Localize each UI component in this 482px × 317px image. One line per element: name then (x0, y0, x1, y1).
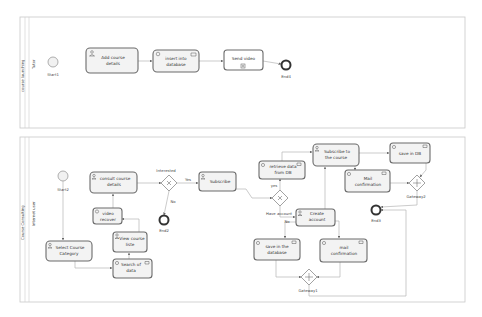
svg-text:Gateway1: Gateway1 (298, 288, 318, 293)
flow-label-no: No (170, 199, 176, 204)
svg-text:Have account: Have account (266, 211, 293, 216)
task-save-in-the-database[interactable]: save in the database (254, 239, 300, 260)
svg-text:End3: End3 (371, 218, 381, 223)
task-insert-into-database[interactable]: insert into database (153, 50, 199, 72)
task-retrieve-data-from-db[interactable]: retrieve data from DB (259, 161, 305, 179)
subprocess-send-video[interactable]: Send video (224, 50, 263, 70)
svg-text:Subscribe: Subscribe (210, 179, 231, 184)
pool-label: Course Consulting (20, 205, 25, 240)
flow-label-yes: yes (271, 183, 278, 188)
svg-text:save in DB: save in DB (399, 151, 422, 156)
svg-text:Start2: Start2 (57, 187, 69, 192)
flow-label-no: No (284, 219, 290, 224)
task-search-of-data[interactable]: Search of data (113, 259, 152, 278)
svg-text:save in the: save in the (265, 244, 289, 249)
svg-text:from DB: from DB (274, 170, 291, 175)
svg-text:Interested: Interested (156, 168, 176, 173)
task-consult-course-details[interactable]: consult course details (90, 172, 137, 193)
task-add-course-details[interactable]: Add course details (86, 48, 138, 73)
svg-text:database: database (166, 62, 186, 67)
svg-text:End2: End2 (159, 228, 169, 233)
svg-text:Subscribe to: Subscribe to (324, 149, 351, 154)
pool-course-launching: course launching Tutor (20, 17, 465, 128)
svg-text:liste: liste (126, 242, 135, 247)
svg-text:recover: recover (100, 217, 116, 222)
pool-label: course launching (20, 59, 25, 92)
lane-label: Internet user (31, 201, 36, 226)
task-save-in-db[interactable]: save in DB (390, 143, 430, 163)
svg-text:details: details (107, 182, 121, 187)
svg-text:Add course: Add course (101, 55, 125, 60)
svg-text:video: video (102, 211, 114, 216)
task-subscribe[interactable]: Subscribe (199, 172, 236, 191)
svg-text:consult course: consult course (100, 176, 131, 181)
svg-text:mail: mail (340, 245, 349, 250)
svg-text:View course: View course (119, 236, 145, 241)
svg-text:the course: the course (325, 155, 348, 160)
task-create-account[interactable]: Create account (296, 209, 335, 226)
svg-text:End4: End4 (281, 74, 291, 79)
task-video-recover[interactable]: video recover (93, 208, 122, 224)
svg-text:database: database (267, 250, 287, 255)
svg-text:data: data (126, 268, 136, 273)
task-subscribe-to-the-course[interactable]: Subscribe to the course (313, 144, 359, 166)
task-select-course-category[interactable]: Select Course Category (46, 241, 92, 261)
start1-label: Start1 (47, 72, 59, 77)
svg-text:insert into: insert into (165, 56, 187, 61)
svg-text:retrieve data: retrieve data (269, 164, 297, 169)
task-mail-confirmation-upper[interactable]: Mail confirmation (345, 170, 390, 192)
flow-label-yes: Yes (185, 177, 191, 182)
svg-text:confirmation: confirmation (331, 251, 358, 256)
task-view-course-liste[interactable]: View course liste (113, 232, 147, 252)
svg-text:Gateway2: Gateway2 (406, 194, 426, 199)
svg-text:Search of: Search of (121, 262, 141, 267)
svg-text:Create: Create (310, 211, 324, 216)
lane-label: Tutor (31, 59, 36, 70)
svg-text:confirmation: confirmation (355, 182, 382, 187)
svg-text:Send video: Send video (232, 56, 256, 61)
svg-text:Category: Category (59, 251, 79, 256)
task-mail-confirmation-lower[interactable]: mail confirmation (320, 239, 367, 262)
svg-text:account: account (309, 217, 326, 222)
svg-text:details: details (106, 61, 120, 66)
svg-text:Mail: Mail (364, 176, 373, 181)
svg-text:Select Course: Select Course (56, 245, 85, 250)
